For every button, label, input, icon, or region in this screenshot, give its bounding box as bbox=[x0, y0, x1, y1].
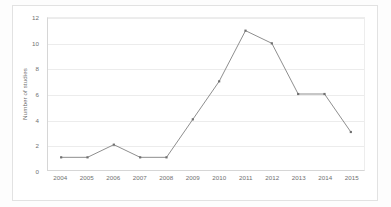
line-series bbox=[48, 18, 364, 170]
plot-area bbox=[47, 17, 365, 171]
y-axis-tick-label: 2 bbox=[35, 142, 39, 149]
y-axis-tick-label: 6 bbox=[35, 91, 39, 98]
data-point-marker bbox=[165, 156, 167, 158]
y-axis-tick-labels: 024681012 bbox=[0, 17, 44, 171]
x-axis-tick-label: 2010 bbox=[212, 174, 226, 181]
data-point-marker bbox=[323, 93, 325, 95]
y-axis-tick-label: 0 bbox=[35, 168, 39, 175]
x-axis-tick-label: 2004 bbox=[53, 174, 67, 181]
data-point-marker bbox=[113, 144, 115, 146]
y-axis-tick-label: 8 bbox=[35, 65, 39, 72]
x-axis-tick-labels: 2004200520062007200820092010201120122013… bbox=[47, 174, 365, 188]
data-point-marker bbox=[350, 131, 352, 133]
data-point-marker bbox=[86, 156, 88, 158]
x-axis-tick-label: 2013 bbox=[292, 174, 306, 181]
x-axis-tick-label: 2005 bbox=[80, 174, 94, 181]
x-axis-tick-label: 2007 bbox=[133, 174, 147, 181]
x-axis-tick-label: 2009 bbox=[186, 174, 200, 181]
data-point-marker bbox=[218, 80, 220, 82]
data-point-marker bbox=[192, 118, 194, 120]
x-axis-tick-label: 2015 bbox=[345, 174, 359, 181]
data-point-marker bbox=[297, 93, 299, 95]
y-axis-tick-label: 12 bbox=[32, 14, 39, 21]
y-axis-tick-label: 10 bbox=[32, 39, 39, 46]
figure-container: Number of studies 024681012 200420052006… bbox=[0, 0, 391, 207]
x-axis-tick-label: 2011 bbox=[239, 174, 253, 181]
data-point-marker bbox=[60, 156, 62, 158]
x-axis-tick-label: 2014 bbox=[318, 174, 332, 181]
data-point-marker bbox=[244, 30, 246, 32]
x-axis-tick-label: 2008 bbox=[159, 174, 173, 181]
y-axis-tick-label: 4 bbox=[35, 116, 39, 123]
data-point-marker bbox=[139, 156, 141, 158]
x-axis-tick-label: 2012 bbox=[265, 174, 279, 181]
series-line bbox=[61, 31, 351, 158]
data-point-marker bbox=[271, 42, 273, 44]
x-axis-tick-label: 2006 bbox=[106, 174, 120, 181]
